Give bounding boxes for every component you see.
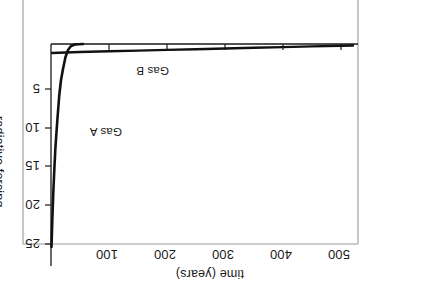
series-annotation-gas-a: Gas A (90, 126, 122, 138)
x-tick-label-100: 100 (96, 247, 118, 262)
figure-frame (23, 0, 358, 244)
y-tick-label-15: 15 (25, 158, 40, 173)
y-axis-title: radiative forcing (0, 116, 6, 208)
y-tick-label-25: 25 (25, 236, 40, 251)
series-line-gas-b (52, 46, 353, 54)
y-tick-label-10: 10 (25, 120, 40, 135)
x-tick-label-300: 300 (212, 247, 234, 262)
x-tick-label-400: 400 (270, 247, 292, 262)
series-line-gas-a (52, 44, 84, 247)
y-tick-label-5: 5 (33, 81, 40, 96)
y-axis (45, 44, 51, 266)
y-tick-label-20: 20 (25, 197, 40, 212)
x-axis-title: time (years) (176, 267, 244, 281)
x-tick-label-500: 500 (328, 247, 350, 262)
x-tick-label-200: 200 (154, 247, 176, 262)
series-annotation-gas-b: Gas B (136, 65, 169, 77)
